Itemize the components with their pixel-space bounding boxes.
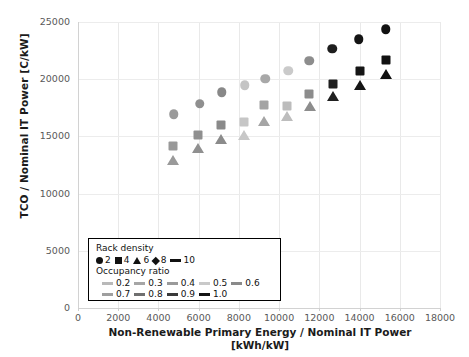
data-point-circle — [283, 66, 293, 76]
x-tick-label: 16000 — [377, 313, 423, 323]
chart-legend: Rack density 246810 Occupancy ratio 0.20… — [88, 238, 281, 301]
data-point-triangle — [380, 69, 392, 79]
legend-occupancy-label: 0.8 — [148, 289, 162, 300]
line-swatch-icon — [199, 282, 210, 285]
gridline-vertical — [319, 22, 320, 308]
chart-figure: TCO / Nominal IT Power [C/kW] Non-Renewa… — [0, 0, 469, 357]
x-tick-label: 0 — [55, 313, 101, 323]
line-swatch-icon — [167, 293, 178, 296]
legend-occupancy-row-1: 0.20.30.40.50.6 — [96, 278, 274, 289]
legend-occupancy-label: 0.6 — [245, 278, 259, 289]
gridline-vertical — [360, 22, 361, 308]
triangle-marker-icon — [133, 257, 141, 264]
data-point-triangle — [192, 143, 204, 153]
data-point-square — [355, 67, 364, 76]
line-swatch-icon — [231, 282, 242, 285]
gridline-horizontal — [78, 22, 440, 23]
x-axis-line — [78, 308, 440, 309]
y-tick-label: 20000 — [8, 74, 70, 84]
data-point-circle — [354, 34, 364, 44]
data-point-circle — [195, 99, 205, 109]
y-tick-label: 25000 — [8, 17, 70, 27]
x-tick-mark — [118, 308, 119, 311]
y-tick-label: 15000 — [8, 131, 70, 141]
legend-occupancy-row-2: 0.70.80.91.0 — [96, 289, 274, 300]
x-tick-mark — [199, 308, 200, 311]
legend-title-rack-density: Rack density — [96, 243, 274, 254]
legend-occupancy-item-0.5: 0.5 — [199, 278, 227, 289]
y-tick-label: 5000 — [8, 246, 70, 256]
legend-occupancy-item-0.7: 0.7 — [102, 289, 130, 300]
square-marker-icon — [115, 257, 122, 264]
legend-occupancy-label: 0.7 — [116, 289, 130, 300]
data-point-triangle — [354, 80, 366, 90]
legend-occupancy-item-1.0: 1.0 — [199, 289, 227, 300]
legend-rack-label: 6 — [143, 255, 149, 266]
y-tick-label: 0 — [8, 303, 70, 313]
legend-title-occupancy: Occupancy ratio — [96, 266, 274, 277]
data-point-triangle — [327, 91, 339, 101]
legend-rack-item-8: 8 — [153, 255, 166, 266]
legend-occupancy-label: 0.5 — [213, 278, 227, 289]
x-tick-label: 12000 — [296, 313, 342, 323]
line-marker-icon — [170, 259, 181, 262]
x-tick-label: 18000 — [417, 313, 463, 323]
gridline-vertical — [440, 22, 441, 308]
data-point-triangle — [258, 116, 270, 126]
data-point-square — [239, 118, 248, 127]
x-tick-label: 4000 — [135, 313, 181, 323]
data-point-square — [381, 55, 390, 64]
x-tick-label: 6000 — [176, 313, 222, 323]
x-axis-units: [kWh/kW] — [231, 339, 289, 351]
data-point-square — [168, 141, 177, 150]
data-point-triangle — [215, 134, 227, 144]
x-tick-label: 2000 — [95, 313, 141, 323]
line-swatch-icon — [134, 282, 145, 285]
gridline-horizontal — [78, 136, 440, 137]
x-tick-mark — [158, 308, 159, 311]
gridline-horizontal — [78, 79, 440, 80]
x-tick-label: 14000 — [337, 313, 383, 323]
data-point-circle — [305, 56, 315, 66]
line-swatch-icon — [102, 293, 113, 296]
x-tick-label: 10000 — [256, 313, 302, 323]
gridline-vertical — [400, 22, 401, 308]
diamond-marker-icon — [152, 257, 160, 265]
line-swatch-icon — [199, 293, 210, 296]
data-point-circle — [260, 74, 270, 84]
line-swatch-icon — [102, 282, 113, 285]
legend-rack-density-row: 246810 — [96, 255, 274, 266]
data-point-square — [305, 90, 314, 99]
legend-rack-label: 10 — [183, 255, 194, 266]
x-tick-mark — [78, 308, 79, 311]
legend-occupancy-item-0.9: 0.9 — [167, 289, 195, 300]
x-tick-mark — [239, 308, 240, 311]
legend-rack-item-4: 4 — [115, 255, 130, 266]
legend-occupancy-item-0.6: 0.6 — [231, 278, 259, 289]
data-point-circle — [240, 81, 250, 91]
x-axis-label: Non-Renewable Primary Energy / Nominal I… — [60, 326, 460, 352]
y-axis-line — [78, 22, 79, 309]
legend-rack-item-10: 10 — [170, 255, 194, 266]
y-tick-label: 10000 — [8, 189, 70, 199]
y-axis-label: TCO / Nominal IT Power [C/kW] — [18, 16, 30, 236]
x-tick-mark — [400, 308, 401, 311]
legend-rack-item-6: 6 — [133, 255, 149, 266]
x-axis-label-text: Non-Renewable Primary Energy / Nominal I… — [109, 326, 412, 338]
legend-rack-item-2: 2 — [96, 255, 111, 266]
data-point-square — [329, 79, 338, 88]
data-point-triangle — [304, 101, 316, 111]
legend-rack-label: 8 — [161, 255, 167, 266]
data-point-circle — [169, 109, 179, 119]
legend-occupancy-label: 0.2 — [116, 278, 130, 289]
legend-occupancy-item-0.4: 0.4 — [167, 278, 195, 289]
x-tick-mark — [360, 308, 361, 311]
x-tick-mark — [319, 308, 320, 311]
legend-occupancy-label: 0.4 — [181, 278, 195, 289]
legend-occupancy-label: 1.0 — [213, 289, 227, 300]
data-point-square — [260, 100, 269, 109]
legend-rack-label: 4 — [124, 255, 130, 266]
legend-occupancy-item-0.3: 0.3 — [134, 278, 162, 289]
data-point-circle — [381, 25, 391, 35]
line-swatch-icon — [134, 293, 145, 296]
